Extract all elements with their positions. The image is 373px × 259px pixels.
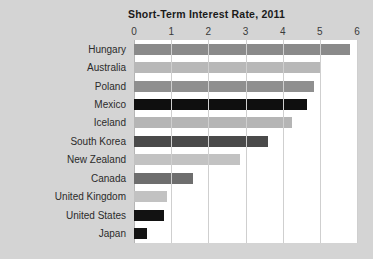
bar [134, 173, 193, 184]
gridline [171, 40, 172, 243]
bar [134, 228, 147, 239]
category-label-row: Poland [0, 77, 130, 95]
category-label-row: Australia [0, 58, 130, 76]
category-label: Canada [91, 173, 126, 184]
category-label-row: South Korea [0, 132, 130, 150]
category-axis-labels: HungaryAustraliaPolandMexicoIcelandSouth… [0, 40, 130, 243]
category-label: Japan [99, 228, 126, 239]
category-label-row: Mexico [0, 95, 130, 113]
bar [134, 191, 167, 202]
category-label-row: Iceland [0, 114, 130, 132]
category-label-row: Japan [0, 224, 130, 242]
x-tick-label: 6 [354, 25, 360, 38]
x-tick-label: 5 [317, 25, 323, 38]
gridline [357, 40, 358, 243]
bar [134, 117, 292, 128]
category-label-row: New Zealand [0, 151, 130, 169]
bar [134, 136, 268, 147]
category-label-row: Hungary [0, 40, 130, 58]
category-label: Poland [95, 81, 126, 92]
x-axis-tick-labels: 0123456 [134, 25, 357, 39]
x-tick-label: 4 [280, 25, 286, 38]
bar [134, 210, 164, 221]
bar [134, 44, 350, 55]
category-label: Hungary [88, 44, 126, 55]
bar [134, 99, 307, 110]
x-tick-label: 3 [243, 25, 249, 38]
x-tick-label: 2 [206, 25, 212, 38]
bar [134, 62, 320, 73]
category-label: United Kingdom [55, 191, 126, 202]
category-label: Mexico [94, 99, 126, 110]
gridline [246, 40, 247, 243]
category-label-row: United Kingdom [0, 188, 130, 206]
plot-area [134, 40, 358, 243]
chart-container: Short-Term Interest Rate, 2011 0123456 H… [0, 0, 373, 259]
x-tick-label: 0 [131, 25, 137, 38]
gridline [320, 40, 321, 243]
bar [134, 154, 240, 165]
category-label: South Korea [70, 136, 126, 147]
bar [134, 81, 314, 92]
x-tick-label: 1 [168, 25, 174, 38]
gridline [208, 40, 209, 243]
category-label-row: Canada [0, 169, 130, 187]
category-label: Australia [87, 62, 126, 73]
category-label-row: United States [0, 206, 130, 224]
category-label: New Zealand [67, 154, 126, 165]
category-label: United States [66, 210, 126, 221]
category-label: Iceland [94, 117, 126, 128]
gridline [283, 40, 284, 243]
chart-title: Short-Term Interest Rate, 2011 [0, 8, 373, 20]
